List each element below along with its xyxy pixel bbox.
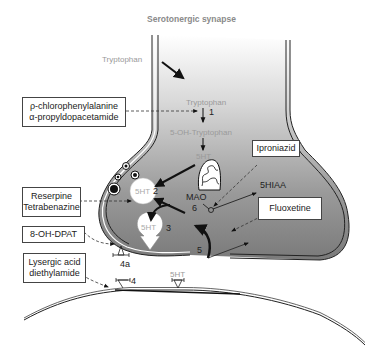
drug-box-fluoxetine: Fluoxetine (258, 197, 322, 220)
drug-name: Lysergic acid (24, 257, 85, 268)
step-5: 5 (197, 245, 202, 255)
diagram-title: Serotonergic synapse (0, 14, 383, 24)
drug-name: Tetrabenazine (23, 202, 80, 213)
drug-name: Iproniazid (253, 143, 299, 154)
drug-name: diethylamide (24, 268, 85, 279)
postsynaptic-membrane (24, 288, 365, 346)
receptor-4 (116, 278, 130, 288)
step-2: 2 (153, 186, 158, 196)
step-1: 1 (209, 107, 214, 117)
drug-name: 8-OH-DPAT (23, 229, 84, 240)
fivehiaa-label: 5HIAA (260, 180, 286, 190)
tryptophan-outside-label: Tryptophan (102, 55, 142, 64)
drug-name: α-propyldopacetamide (23, 112, 125, 123)
fiveht-cyto-label: 5HT (196, 152, 211, 161)
step-6: 6 (192, 203, 197, 213)
drug-name: Reserpine (23, 191, 80, 202)
step-3: 3 (166, 223, 171, 233)
drug-box-reserpine: Reserpine Tetrabenazine (22, 187, 81, 217)
step-4a: 4a (120, 259, 130, 269)
receptor-5ht (172, 278, 184, 288)
fiveht-receptor-label: 5HT (170, 270, 185, 279)
drug-box-8-oh-dpat: 8-OH-DPAT (22, 226, 85, 243)
tryptophan-inside-label: Tryptophan (186, 98, 226, 107)
drug-name: Fluoxetine (259, 203, 321, 214)
fiveht-release-label: 5HT (141, 223, 156, 232)
drug-box-pcpa: ρ-chlorophenylalanine α-propyldopacetami… (22, 97, 126, 127)
drug-box-iproniazid: Iproniazid (252, 140, 300, 157)
presynaptic-terminal (99, 35, 349, 260)
synapse-diagram (0, 0, 383, 360)
fiveht-vesicle-label: 5HT (135, 187, 150, 196)
mao-label: MAO (186, 192, 207, 202)
drug-box-lsd: Lysergic acid diethylamide (23, 253, 86, 283)
five-oh-tryptophan-label: 5-OH-Tryptophan (170, 128, 232, 137)
step-4: 4 (131, 276, 136, 286)
drug-name: ρ-chlorophenylalanine (23, 101, 125, 112)
